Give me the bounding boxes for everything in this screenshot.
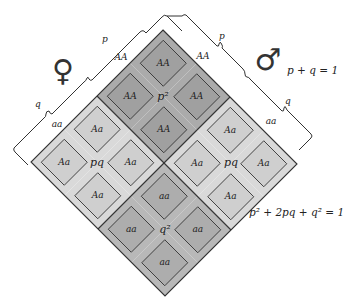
female-p-label: p <box>102 34 108 44</box>
female-q-label: q <box>35 99 41 109</box>
genotype-cell-label: aa <box>126 224 137 234</box>
genotype-cell-label: Aa <box>124 157 137 167</box>
q2-region-label: q² <box>159 223 170 236</box>
male-q-label: q <box>285 96 291 106</box>
genotype-cell-label: Aa <box>257 158 270 168</box>
genotype-cell-label: Aa <box>57 157 70 167</box>
genotype-cell-label: AA <box>156 124 170 134</box>
genotype-cell-label: AA <box>156 58 170 68</box>
genotype-cell-label: AA <box>123 91 137 101</box>
male-symbol: ♂ <box>255 42 282 77</box>
pq-left-region-label: pq <box>90 156 104 169</box>
genotype-sum-equation: p² + 2pq + q² = 1 <box>249 206 344 218</box>
allele-sum-equation: p + q = 1 <box>287 64 338 76</box>
female-edge-label-aa: aa <box>52 119 63 129</box>
hardy-weinberg-diagram: AAAAAaAaAAAAAaAaAaAaaaaaAaAaaaaa p² pq p… <box>0 0 348 307</box>
p2-region-label: p² <box>157 90 168 103</box>
male-edge-label-aa: aa <box>266 116 277 126</box>
pq-right-region-label: pq <box>224 156 238 169</box>
female-symbol: ♀ <box>52 53 74 88</box>
genotype-cell-label: aa <box>192 224 203 234</box>
genotype-cell-label: Aa <box>91 190 104 200</box>
genotype-cell-label: Aa <box>223 125 236 135</box>
genotype-cell-label: Aa <box>224 191 237 201</box>
genotype-cell-label: Aa <box>190 158 203 168</box>
genotype-cell-label: aa <box>159 191 170 201</box>
genotype-cell-label: AA <box>189 91 203 101</box>
genotype-cell-label: aa <box>159 257 170 267</box>
male-p-label: p <box>219 31 225 41</box>
genotype-cell-label: Aa <box>90 124 103 134</box>
male-edge-label-AA: AA <box>196 51 210 61</box>
